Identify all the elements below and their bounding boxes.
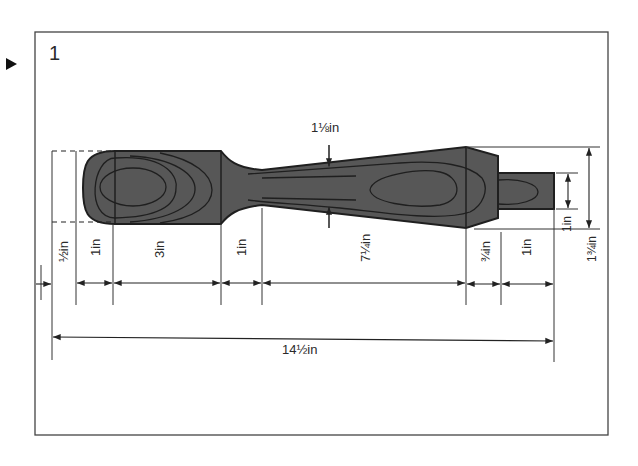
label-tenon-length: 1in: [519, 239, 534, 256]
label-knob-offset: ½in: [56, 241, 71, 262]
label-knob-body: 3in: [152, 241, 167, 258]
step-number: 1: [49, 42, 60, 64]
step-marker-icon: [6, 58, 17, 70]
label-overall-length: 14½in: [282, 342, 317, 357]
label-knob-radius: 1in: [88, 239, 103, 256]
label-neck-diameter: 1⅛in: [311, 120, 339, 135]
label-taper-length: 7¼in: [358, 234, 373, 262]
label-tenon-diameter: 1in: [560, 216, 574, 232]
figure-frame: [35, 32, 608, 435]
label-collar-diameter: 1¾in: [585, 236, 599, 262]
label-collar-length: ¾in: [478, 241, 493, 262]
label-neck-length: 1in: [234, 239, 249, 256]
handle-dimension-diagram: 1: [0, 0, 638, 466]
handle-shape: [83, 147, 554, 228]
